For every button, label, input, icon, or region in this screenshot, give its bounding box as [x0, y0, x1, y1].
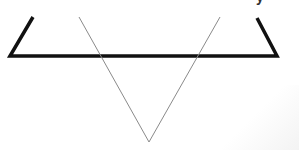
diagram-canvas: y	[0, 0, 299, 150]
v-shape-line	[79, 17, 220, 142]
cup-shape-line	[10, 17, 277, 56]
partial-glyph: y	[256, 0, 264, 5]
corner-shade	[219, 85, 299, 150]
